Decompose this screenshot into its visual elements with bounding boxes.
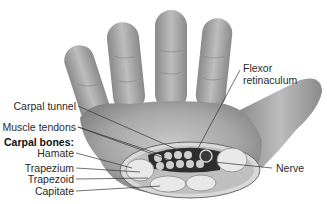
label-carpal-tunnel: Carpal tunnel [14, 100, 76, 112]
label-capitate: Capitate [35, 185, 74, 197]
label-flexor-retinaculum-2: retinaculum [243, 74, 297, 86]
carpal-tunnel-diagram: Carpal tunnel Muscle tendons Carpal bone… [0, 0, 327, 204]
label-trapezoid: Trapezoid [28, 173, 74, 185]
label-hamate: Hamate [37, 147, 74, 159]
label-muscle-tendons: Muscle tendons [2, 121, 76, 133]
label-nerve: Nerve [276, 162, 304, 174]
median-nerve [200, 150, 212, 162]
label-flexor-retinaculum-1: Flexor [243, 62, 272, 74]
wrist-cross-section [120, 142, 260, 198]
